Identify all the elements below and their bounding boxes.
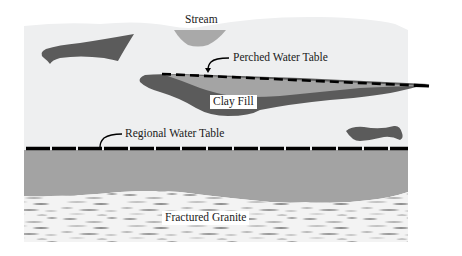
- clay-fill-label: Clay Fill: [210, 95, 257, 109]
- saturated-zone: [24, 150, 408, 203]
- regional-water-table-label: Regional Water Table: [125, 128, 224, 140]
- stream-label: Stream: [185, 14, 218, 26]
- perched-water-table-label: Perched Water Table: [233, 52, 328, 64]
- fractured-granite-label: Fractured Granite: [162, 211, 249, 225]
- perched-water-table-end: [414, 85, 429, 86]
